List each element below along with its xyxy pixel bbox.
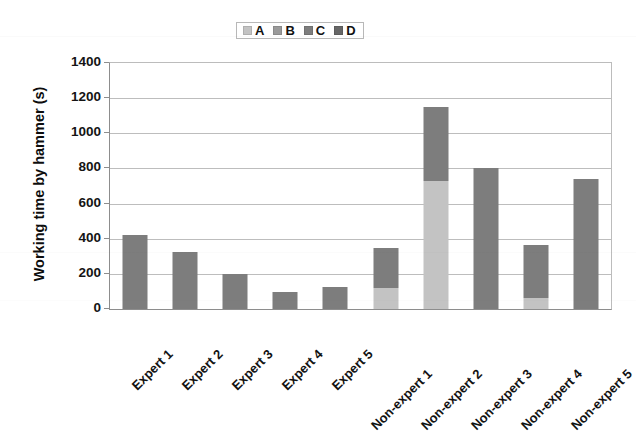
bar-segment-c [323,287,348,309]
legend-entry-a[interactable]: A [243,24,264,37]
bar-segment-c [123,235,148,309]
y-axis-tick-label: 0 [47,300,101,315]
legend-entry-c[interactable]: C [304,24,325,37]
x-axis-tick-label: Expert 5 [329,346,376,393]
y-axis-tickmark [104,273,109,274]
y-axis-tickmark [104,203,109,204]
bar-group [561,63,611,309]
bar-group [260,63,310,309]
legend-swatch-icon [334,26,343,35]
chart-legend: ABCD [236,22,364,39]
legend-entry-b[interactable]: B [273,24,294,37]
bar-stack[interactable] [423,107,448,309]
bar-stack[interactable] [573,179,598,309]
y-axis-tick-label: 200 [47,265,101,280]
bar-stack[interactable] [173,252,198,309]
bar-stack[interactable] [373,248,398,309]
bar-segment-c [423,107,448,181]
x-axis-tick-label: Expert 3 [229,346,276,393]
bar-segment-c [223,274,248,309]
bar-segment-c [573,179,598,309]
bar-segment-a [423,181,448,309]
y-axis-title: Working time by hammer (s) [31,59,47,309]
bar-segment-a [373,288,398,309]
y-axis-tick-label: 1400 [47,54,101,69]
y-axis-tickmark [104,308,109,309]
y-axis-tickmark [104,97,109,98]
y-axis-tick-label: 1000 [47,124,101,139]
bar-group [511,63,561,309]
bar-stack[interactable] [523,245,548,309]
bar-stack[interactable] [223,274,248,309]
bar-segment-c [173,252,198,309]
bar-chart: ABCD Working time by hammer (s) 02004006… [0,0,636,439]
bar-segment-c [523,245,548,299]
bar-group [110,63,160,309]
bar-segment-c [373,248,398,288]
y-axis-tickmark [104,238,109,239]
x-axis-tick-label: Expert 2 [179,346,226,393]
bar-group [210,63,260,309]
bar-segment-a [523,298,548,309]
legend-label: D [346,24,355,37]
bar-group [310,63,360,309]
bar-segment-c [473,168,498,309]
bar-group [361,63,411,309]
y-axis-tick-label: 800 [47,159,101,174]
y-axis-tickmark [104,167,109,168]
bar-stack[interactable] [473,168,498,309]
legend-label: A [255,24,264,37]
legend-label: C [316,24,325,37]
bar-segment-c [273,292,298,309]
x-axis-tick-label: Expert 4 [279,346,326,393]
legend-label: B [285,24,294,37]
y-axis-tickmark [104,62,109,63]
y-axis-tick-label: 600 [47,195,101,210]
legend-swatch-icon [304,26,313,35]
bar-stack[interactable] [273,292,298,309]
bar-series-group [110,63,611,309]
plot-area [109,62,612,310]
y-axis-tick-label: 400 [47,230,101,245]
legend-swatch-icon [273,26,282,35]
bar-group [160,63,210,309]
x-axis-tick-label: Expert 1 [129,346,176,393]
legend-entry-d[interactable]: D [334,24,355,37]
bar-group [411,63,461,309]
bar-stack[interactable] [323,287,348,309]
x-axis-tick-labels: Expert 1Expert 2Expert 3Expert 4Expert 5… [109,310,610,430]
legend-swatch-icon [243,26,252,35]
bar-group [461,63,511,309]
bar-stack[interactable] [123,235,148,309]
y-axis-tick-label: 1200 [47,89,101,104]
y-axis-tickmark [104,132,109,133]
